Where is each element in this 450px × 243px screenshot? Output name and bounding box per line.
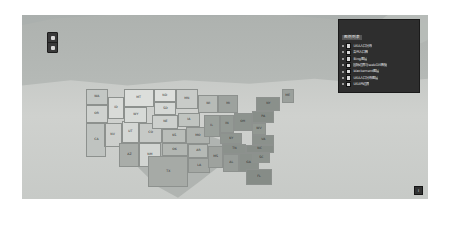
state-mi[interactable]: MI (218, 95, 238, 113)
state-label: IL (211, 124, 214, 127)
state-label: MI (226, 102, 230, 105)
state-ia[interactable]: IA (178, 113, 200, 127)
state-pa[interactable]: PA (252, 111, 274, 123)
legend-item-label: USA人口分布图层 (353, 76, 378, 81)
united-states-layer: WAORCAIDNVUTAZMTWYCONMNDSDNEKSOKTXMNIAMO… (86, 89, 354, 189)
legend-item-label: 各州人口数 (353, 50, 368, 55)
legend-bullet-icon (342, 64, 344, 66)
legend-checkbox[interactable] (346, 43, 351, 48)
state-sd[interactable]: SD (154, 102, 176, 115)
legend-checkbox[interactable] (346, 75, 351, 80)
state-label: ME (286, 94, 291, 97)
legend-bullet-icon (342, 83, 344, 85)
legend-bullet-icon (342, 58, 344, 60)
state-wy[interactable]: WY (124, 107, 147, 123)
state-va[interactable]: VA (252, 135, 274, 145)
state-ne[interactable]: NE (152, 115, 178, 129)
legend-item[interactable]: 各州人口数 (342, 50, 416, 55)
legend-bullet-icon (342, 51, 344, 53)
state-nd[interactable]: ND (154, 89, 176, 102)
state-label: WA (94, 95, 99, 98)
state-ca[interactable]: CA (86, 123, 106, 157)
state-wv[interactable]: WV (252, 123, 266, 135)
state-label: WV (256, 127, 261, 130)
legend-item[interactable]: Bing图层 (342, 56, 416, 61)
state-label: ID (114, 106, 118, 109)
attribution-badge[interactable]: i (414, 186, 423, 195)
legend-item[interactable]: USA人口分布 (342, 43, 416, 48)
state-label: UT (128, 130, 132, 133)
legend-title: 图例列表 (342, 35, 362, 40)
state-mt[interactable]: MT (124, 89, 154, 107)
state-ok[interactable]: OK (162, 143, 188, 156)
state-or[interactable]: OR (86, 105, 108, 123)
map-canvas[interactable]: WAORCAIDNVUTAZMTWYCONMNDSDNEKSOKTXMNIAMO… (22, 15, 428, 199)
zoom-out-button[interactable] (48, 42, 57, 52)
legend-item-label: USA人口分布 (353, 44, 372, 49)
state-ms[interactable]: MS (208, 146, 223, 168)
map-widget-screenshot: WAORCAIDNVUTAZMTWYCONMNDSDNEKSOKTXMNIAMO… (0, 0, 450, 243)
state-label: AR (196, 149, 200, 152)
state-nc[interactable]: NC (246, 145, 274, 153)
state-label: TN (232, 147, 236, 150)
zoom-in-icon (51, 36, 55, 40)
state-label: NY (266, 102, 270, 105)
state-label: ND (163, 94, 168, 97)
legend-item-label: USA州边界 (353, 82, 369, 87)
state-la[interactable]: LA (188, 158, 210, 173)
state-label: KS (172, 134, 176, 137)
state-ky[interactable]: KY (220, 133, 242, 144)
state-label: WI (206, 102, 210, 105)
state-ny[interactable]: NY (256, 97, 280, 111)
state-ut[interactable]: UT (122, 121, 139, 143)
legend-checkbox[interactable] (346, 63, 351, 68)
zoom-out-icon (51, 46, 55, 50)
state-label: GA (247, 161, 252, 164)
state-label: VA (261, 138, 265, 141)
legend-bullet-icon (342, 45, 344, 47)
state-wi[interactable]: WI (198, 95, 218, 113)
state-az[interactable]: AZ (119, 143, 139, 167)
state-label: KY (229, 137, 233, 140)
zoom-control[interactable] (47, 32, 58, 53)
state-ar[interactable]: AR (188, 144, 208, 158)
state-mn[interactable]: MN (176, 89, 198, 109)
legend-panel[interactable]: 图例列表 USA人口分布各州人口数Bing图层国际边界与webGIS数据blac… (338, 19, 420, 93)
state-sc[interactable]: SC (252, 153, 270, 163)
state-label: MS (213, 155, 218, 158)
state-label: NC (258, 147, 263, 150)
state-label: NE (163, 120, 167, 123)
legend-item[interactable]: USA人口分布图层 (342, 75, 416, 80)
state-label: FL (257, 175, 261, 178)
legend-bullet-icon (342, 71, 344, 73)
state-label: MN (184, 97, 189, 100)
legend-item-label: Bing图层 (353, 57, 367, 62)
state-in[interactable]: IN (220, 115, 234, 133)
legend-checkbox[interactable] (346, 69, 351, 74)
state-label: PA (261, 115, 265, 118)
legend-checkbox[interactable] (346, 56, 351, 61)
state-label: MT (137, 96, 142, 99)
legend-checkbox[interactable] (346, 82, 351, 87)
state-id[interactable]: ID (108, 97, 124, 119)
legend-item[interactable]: USA州边界 (342, 82, 416, 87)
state-tx[interactable]: TX (148, 156, 188, 187)
state-label: OR (95, 112, 100, 115)
state-il[interactable]: IL (204, 115, 220, 137)
state-label: SC (259, 156, 263, 159)
legend-checkbox[interactable] (346, 50, 351, 55)
legend-item[interactable]: blackement图层 (342, 69, 416, 74)
legend-item-label: blackement图层 (353, 69, 379, 74)
state-label: MO (195, 134, 200, 137)
state-me[interactable]: ME (282, 89, 294, 103)
state-label: TX (166, 170, 170, 173)
zoom-in-button[interactable] (48, 33, 57, 42)
state-label: OH (240, 120, 245, 123)
state-wa[interactable]: WA (86, 89, 108, 105)
state-label: NV (111, 133, 116, 136)
state-ks[interactable]: KS (162, 129, 186, 143)
state-al[interactable]: AL (223, 154, 239, 172)
state-fl[interactable]: FL (246, 169, 272, 185)
legend-item[interactable]: 国际边界与webGIS数据 (342, 63, 416, 68)
state-oh[interactable]: OH (234, 113, 252, 131)
